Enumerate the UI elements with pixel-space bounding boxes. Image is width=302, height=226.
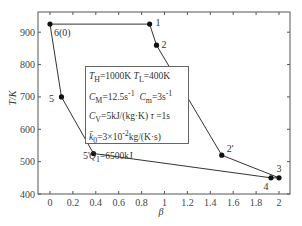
x-tick-label: 0.8: [135, 197, 148, 208]
data-point: [147, 22, 152, 27]
x-tick-label: 0.6: [112, 197, 125, 208]
y-axis-label: T/K: [7, 89, 18, 105]
x-tick-label: 1.4: [204, 197, 217, 208]
legend-temperatures: TH=1000K TL=400K: [89, 69, 185, 87]
y-tick-label: 400: [20, 189, 35, 200]
x-tick-label: 1.8: [250, 197, 263, 208]
y-tick-label: 800: [20, 59, 35, 70]
point-label: 3: [277, 163, 282, 174]
data-point: [154, 43, 159, 48]
data-point: [219, 153, 224, 158]
y-tick-label: 500: [20, 156, 35, 167]
point-label: 6(0): [54, 27, 71, 39]
y-tick-label: 600: [20, 124, 35, 135]
data-point: [59, 94, 64, 99]
data-point: [276, 175, 281, 180]
data-point: [268, 175, 273, 180]
point-label: 2: [161, 39, 166, 50]
legend-q1: Q1=6500kJ: [89, 149, 185, 167]
x-tick-label: 0.2: [67, 197, 80, 208]
x-tick-label: 2: [277, 197, 282, 208]
point-label: 4: [263, 181, 268, 192]
point-label: 2': [227, 143, 234, 154]
y-tick-label: 900: [20, 27, 35, 38]
legend-heat-capacity: CV=5kJ/(kg·K) τ =1s: [89, 109, 185, 127]
point-label: 5: [49, 93, 54, 104]
data-point: [47, 22, 52, 27]
y-tick-label: 700: [20, 91, 35, 102]
legend-rates: CM=12.5s-1 Cm=3s-1: [89, 87, 185, 109]
x-axis-label: β: [158, 206, 164, 217]
x-tick-label: 0.4: [90, 197, 103, 208]
point-label: 1: [156, 17, 161, 28]
x-tick-label: 1.6: [227, 197, 240, 208]
legend-k0: k̄0=3×10-2kg/(K·s): [89, 127, 185, 149]
parameter-legend: TH=1000K TL=400K CM=12.5s-1 Cm=3s-1 CV=5…: [85, 66, 189, 144]
x-tick-label: 1.2: [181, 197, 194, 208]
x-tick-label: 0: [48, 197, 53, 208]
